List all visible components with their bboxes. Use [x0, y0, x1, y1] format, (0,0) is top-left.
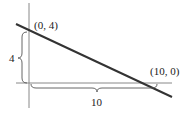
point-label-x-intercept: (10, 0) [150, 65, 180, 78]
horizontal-brace [31, 84, 157, 92]
dimension-label-height: 4 [9, 52, 15, 64]
intercept-diagram: (0, 4) (10, 0) 4 10 [0, 0, 188, 114]
point-label-y-intercept: (0, 4) [34, 19, 58, 32]
dimension-label-width: 10 [91, 96, 103, 108]
line-segment [16, 24, 172, 97]
vertical-brace [18, 32, 27, 83]
